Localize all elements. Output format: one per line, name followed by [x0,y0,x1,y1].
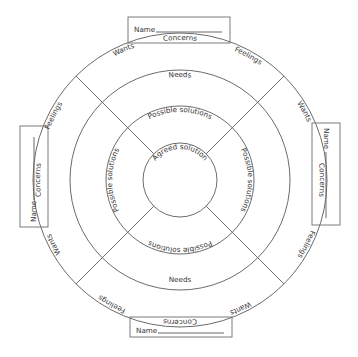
feelings-label-top-right: Feelings [233,44,264,66]
solutions-label-right: Possible solutions [239,146,255,213]
solutions-label-left: Possible solutions [105,146,121,213]
name-label-right: Name [322,128,331,150]
wants-label-bottom-right: Wants [228,300,252,318]
name-label-left: Name [29,200,38,222]
solutions-label-bottom: Possible solutions [146,239,213,255]
solutions-label-top: Possible solutions [146,105,213,121]
needs-label-bottom: Needs [169,275,192,284]
wants-label-top-left: Wants [111,41,135,58]
feelings-label-bottom-left: Feelings [96,293,127,315]
conflict-wheel-diagram: Name Name Name Name Concerns Concerns Co… [0,0,358,357]
wants-label-bottom-left: Wants [44,232,62,256]
needs-label-top: Needs [168,70,192,80]
agreed-solution-label: Agreed solution [150,142,210,162]
wants-label-top-right: Wants [295,99,314,123]
name-label-top: Name [134,25,156,34]
name-label-bottom: Name [136,326,158,335]
